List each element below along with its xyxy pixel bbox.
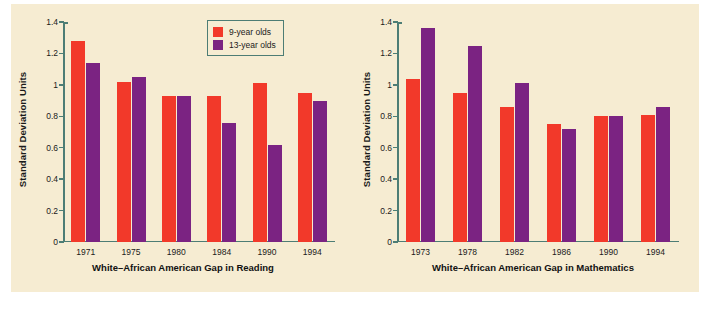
bar-age13	[562, 129, 576, 242]
y-axis-tick-label: 1	[53, 80, 58, 90]
bar-group: 1978	[453, 22, 482, 242]
y-axis-tick	[393, 210, 398, 212]
x-axis-tick-label: 1990	[258, 247, 277, 257]
y-axis-tick	[59, 210, 64, 212]
x-axis-tick-label: 1978	[458, 247, 477, 257]
y-axis-tick	[59, 53, 64, 55]
y-axis-tick-label: 1.2	[46, 48, 58, 58]
x-axis-tick-label: 1994	[646, 247, 665, 257]
plot-area-mathematics: 00.20.40.60.811.21.4 1973197819821986199…	[397, 22, 679, 242]
x-axis-tick-label: 1990	[599, 247, 618, 257]
x-axis-tick-label: 1986	[552, 247, 571, 257]
bar-group: 1994	[641, 22, 670, 242]
y-axis-tick	[393, 53, 398, 55]
y-axis-title-reading: Standard Deviation Units	[15, 4, 31, 254]
bar-age13	[609, 116, 623, 242]
bar-group: 1971	[71, 22, 100, 242]
chart-mathematics: Standard Deviation Units 00.20.40.60.811…	[355, 4, 699, 292]
bar-age13	[468, 46, 482, 242]
bar-age9	[253, 83, 267, 242]
bar-age9	[117, 82, 131, 242]
bar-age13	[132, 77, 146, 242]
y-axis-tick-label: 1.4	[380, 17, 392, 27]
y-axis-tick	[59, 241, 64, 243]
bar-age9	[207, 96, 221, 242]
chart-reading: Standard Deviation Units 00.20.40.60.811…	[11, 4, 355, 292]
bar-age9	[71, 41, 85, 242]
bar-group: 1973	[406, 22, 435, 242]
legend-label-age13: 13-year olds	[229, 40, 276, 50]
legend-swatch-age9	[213, 27, 223, 37]
bar-age13	[421, 28, 435, 242]
bar-age9	[406, 79, 420, 242]
bar-age13	[515, 83, 529, 242]
y-axis-title-text: Standard Deviation Units	[362, 71, 373, 186]
bar-age9	[500, 107, 514, 242]
x-axis-tick-label: 1984	[212, 247, 231, 257]
y-axis-tick	[393, 147, 398, 149]
y-axis-title-text: Standard Deviation Units	[18, 71, 29, 186]
bar-group: 1986	[547, 22, 576, 242]
y-axis-tick-label: 1	[387, 80, 392, 90]
plot-area-reading: 00.20.40.60.811.21.4 1971197519801984199…	[63, 22, 335, 242]
chart-caption-mathematics: White–African American Gap in Mathematic…	[355, 262, 705, 273]
legend: 9-year olds13-year olds	[207, 20, 284, 56]
y-axis-tick-label: 0.6	[46, 143, 58, 153]
bar-age13	[86, 63, 100, 242]
bar-age13	[222, 123, 236, 242]
x-axis-tick-label: 1971	[76, 247, 95, 257]
y-axis-tick	[59, 178, 64, 180]
bar-group: 1990	[594, 22, 623, 242]
legend-item: 13-year olds	[213, 38, 276, 51]
bar-group: 1994	[298, 22, 327, 242]
y-axis-title-mathematics: Standard Deviation Units	[359, 4, 375, 254]
x-axis-tick-label: 1980	[167, 247, 186, 257]
bar-age13	[177, 96, 191, 242]
y-axis-tick-label: 0.8	[46, 111, 58, 121]
bar-age13	[268, 145, 282, 242]
y-axis-tick-label: 0.8	[380, 111, 392, 121]
legend-label-age9: 9-year olds	[229, 27, 271, 37]
y-axis-tick	[393, 84, 398, 86]
chart-panel: Standard Deviation Units 00.20.40.60.811…	[11, 4, 699, 292]
y-axis-tick-label: 1.4	[46, 17, 58, 27]
bar-age9	[162, 96, 176, 242]
x-axis-tick-label: 1994	[303, 247, 322, 257]
x-axis-line	[63, 241, 335, 243]
y-axis-tick-label: 0.2	[380, 206, 392, 216]
y-axis-tick	[59, 84, 64, 86]
bar-group: 1982	[500, 22, 529, 242]
legend-swatch-age13	[213, 40, 223, 50]
legend-item: 9-year olds	[213, 25, 276, 38]
x-axis-tick-label: 1973	[411, 247, 430, 257]
y-axis-tick	[393, 116, 398, 118]
y-axis-tick	[59, 147, 64, 149]
y-axis-tick-label: 0	[387, 237, 392, 247]
bar-group: 1975	[117, 22, 146, 242]
y-axis-tick-label: 1.2	[380, 48, 392, 58]
y-axis-tick-label: 0	[53, 237, 58, 247]
figure-root: Standard Deviation Units 00.20.40.60.811…	[0, 0, 710, 313]
y-axis-tick	[393, 241, 398, 243]
bar-age9	[453, 93, 467, 242]
y-axis-tick	[59, 21, 64, 23]
y-axis-tick	[393, 178, 398, 180]
x-axis-tick-label: 1982	[505, 247, 524, 257]
y-axis-tick	[393, 21, 398, 23]
x-axis-line	[397, 241, 679, 243]
y-axis-tick-label: 0.6	[380, 143, 392, 153]
bar-age9	[547, 124, 561, 242]
bar-age13	[313, 101, 327, 242]
bar-age9	[298, 93, 312, 242]
bar-age9	[594, 116, 608, 242]
y-axis-tick-label: 0.2	[46, 206, 58, 216]
y-axis-tick-label: 0.4	[46, 174, 58, 184]
x-axis-tick-label: 1975	[122, 247, 141, 257]
y-axis-tick-label: 0.4	[380, 174, 392, 184]
chart-caption-reading: White–African American Gap in Reading	[11, 262, 355, 273]
bar-age9	[641, 115, 655, 242]
bar-group: 1980	[162, 22, 191, 242]
bar-age13	[656, 107, 670, 242]
y-axis-tick	[59, 116, 64, 118]
